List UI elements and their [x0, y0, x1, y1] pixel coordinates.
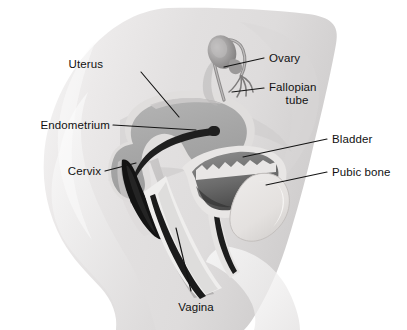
anatomy-diagram: Uterus Endometrium Cervix Vagina Ovary F… — [0, 0, 407, 330]
label-fallopian-tube-line1: Fallopian — [269, 81, 325, 94]
label-endometrium: Endometrium — [41, 119, 111, 132]
label-fallopian-tube: Fallopian tube — [269, 81, 325, 107]
label-fallopian-tube-line2: tube — [269, 94, 325, 107]
label-vagina: Vagina — [178, 301, 214, 314]
label-pubic-bone: Pubic bone — [332, 166, 391, 179]
label-bladder: Bladder — [332, 133, 372, 146]
label-ovary: Ovary — [269, 52, 300, 65]
label-cervix: Cervix — [68, 165, 101, 178]
label-uterus: Uterus — [69, 58, 103, 71]
